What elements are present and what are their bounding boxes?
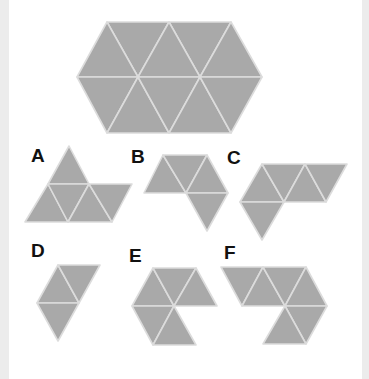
option-f-shape[interactable] [221, 267, 327, 344]
option-b-label: B [131, 147, 145, 166]
option-a-label: A [31, 146, 45, 165]
option-d-label: D [31, 241, 45, 260]
option-e-shape[interactable] [132, 268, 217, 345]
target-hexagon [77, 22, 262, 133]
triangle-cell [186, 193, 228, 231]
option-c-label: C [227, 148, 241, 167]
triangle-cell [48, 146, 89, 184]
puzzle-canvas [0, 0, 369, 379]
option-c-shape[interactable] [240, 164, 347, 240]
option-e-label: E [129, 246, 142, 265]
option-d-shape[interactable] [37, 265, 100, 341]
triangle-cell [37, 303, 79, 341]
option-f-label: F [224, 243, 236, 262]
triangle-cell [240, 202, 284, 240]
option-b-shape[interactable] [144, 155, 228, 231]
